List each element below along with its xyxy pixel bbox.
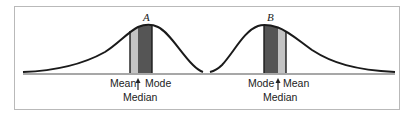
distribution-b-mode-band <box>264 25 278 73</box>
distribution-b-label: B <box>267 11 274 23</box>
distribution-b-mean-label: Mean <box>283 77 309 89</box>
distribution-a-mean-label: Mean <box>110 77 136 89</box>
distribution-b: B <box>210 11 395 73</box>
skewed-distributions-diagram: A B Mean Mode Median Mode Mean Median <box>0 0 415 120</box>
distribution-a-labels: Mean Mode Median <box>110 77 171 103</box>
distribution-a-mode-label: Mode <box>145 77 171 89</box>
distribution-b-median-arrow-icon <box>276 78 281 90</box>
distribution-a-mode-band <box>138 25 152 73</box>
distribution-a-median-label: Median <box>123 91 158 103</box>
distribution-b-mode-label: Mode <box>248 77 274 89</box>
distribution-a-mean-band <box>130 27 138 73</box>
distribution-b-median-label: Median <box>263 91 298 103</box>
distribution-b-mean-band <box>278 28 286 74</box>
distribution-b-curve <box>210 25 395 72</box>
distribution-a: A <box>23 11 203 73</box>
distribution-b-labels: Mode Mean Median <box>248 77 309 103</box>
distribution-a-curve <box>23 25 203 72</box>
distribution-a-label: A <box>142 11 150 23</box>
